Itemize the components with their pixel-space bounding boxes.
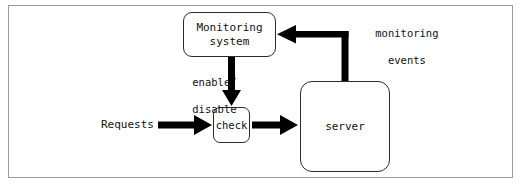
arrow-check-to-server bbox=[252, 115, 298, 135]
edge-label-monitoring-events-line1: monitoring bbox=[375, 27, 438, 39]
node-monitoring-system-label-line1: Monitoring bbox=[196, 21, 262, 34]
node-monitoring-system-label: Monitoring system bbox=[196, 21, 262, 49]
edge-label-monitoring-events: monitoring events bbox=[350, 13, 439, 81]
arrow-server-to-monitoring bbox=[277, 25, 349, 82]
node-monitoring-system[interactable]: Monitoring system bbox=[183, 12, 276, 57]
edge-label-requests: Requests bbox=[101, 118, 154, 132]
edge-label-enable-disable: enable/ disable bbox=[167, 62, 237, 130]
node-server-label: server bbox=[325, 120, 365, 133]
edge-label-enable-disable-line1: enable/ bbox=[192, 76, 236, 88]
node-server[interactable]: server bbox=[300, 81, 390, 172]
diagram-screenshot: Monitoring system check server Requests … bbox=[0, 0, 530, 185]
edge-label-monitoring-events-line2: events bbox=[388, 54, 426, 66]
edge-label-enable-disable-line2: disable bbox=[192, 103, 236, 115]
node-monitoring-system-label-line2: system bbox=[210, 35, 250, 48]
